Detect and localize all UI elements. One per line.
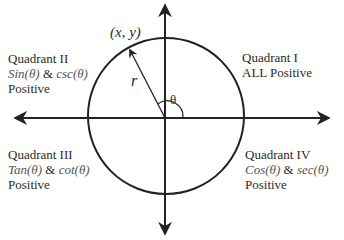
quadrant-1-title: Quadrant I bbox=[242, 50, 312, 65]
quadrant-2-positive: Positive bbox=[8, 81, 88, 96]
quadrant-3-label: Quadrant III Tan(θ) & cot(θ) Positive bbox=[8, 147, 90, 192]
quadrant-3-func2: cot(θ) bbox=[59, 162, 90, 177]
quadrant-4-label: Quadrant IV Cos(θ) & sec(θ) Positive bbox=[245, 147, 329, 192]
quadrant-3-amp: & bbox=[45, 162, 55, 177]
quadrant-1-rule: ALL Positive bbox=[242, 65, 312, 80]
quadrant-2-title: Quadrant II bbox=[8, 51, 88, 66]
radius-label: r bbox=[131, 73, 137, 88]
angle-label: θ bbox=[170, 92, 176, 107]
quadrant-3-positive: Positive bbox=[8, 177, 90, 192]
quadrant-4-amp: & bbox=[284, 162, 294, 177]
quadrant-4-func2: sec(θ) bbox=[297, 162, 329, 177]
quadrant-2-func1: Sin(θ) bbox=[8, 66, 40, 81]
quadrant-1-label: Quadrant I ALL Positive bbox=[242, 50, 312, 80]
quadrant-2-label: Quadrant II Sin(θ) & csc(θ) Positive bbox=[8, 51, 88, 96]
quadrant-4-positive: Positive bbox=[245, 177, 329, 192]
point-label: (x, y) bbox=[110, 25, 141, 40]
quadrant-4-title: Quadrant IV bbox=[245, 147, 329, 162]
quadrant-2-func2: csc(θ) bbox=[56, 66, 88, 81]
quadrant-2-amp: & bbox=[43, 66, 53, 81]
quadrant-3-title: Quadrant III bbox=[8, 147, 90, 162]
quadrant-3-func1: Tan(θ) bbox=[8, 162, 42, 177]
quadrant-4-func1: Cos(θ) bbox=[245, 162, 280, 177]
unit-circle-diagram bbox=[0, 0, 344, 240]
